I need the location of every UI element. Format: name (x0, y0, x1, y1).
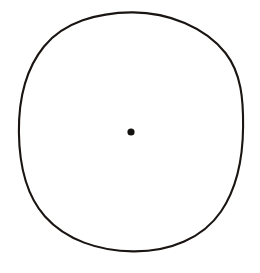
figure-canvas (0, 0, 260, 273)
center-dot (127, 128, 134, 135)
circle-diagram (0, 0, 260, 273)
paper-background (0, 0, 260, 273)
